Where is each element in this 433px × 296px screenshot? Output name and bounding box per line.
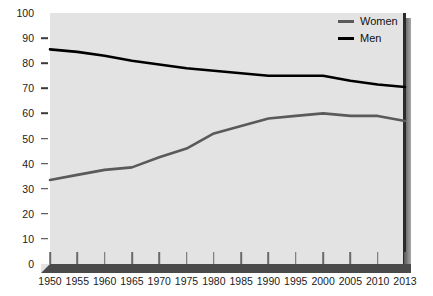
- plot-area: [50, 13, 406, 264]
- x-axis-tick: [377, 252, 379, 264]
- x-axis-label: 2000: [311, 276, 334, 287]
- x-axis-tick: [186, 252, 188, 264]
- y-axis-tick: [41, 238, 48, 240]
- y-axis-tick: [41, 213, 48, 215]
- legend-swatch-icon: [338, 37, 354, 40]
- x-axis-tick: [158, 252, 160, 264]
- x-axis-label: 2013: [393, 276, 416, 287]
- x-axis-label: 1975: [175, 276, 198, 287]
- y-axis-tick: [41, 163, 48, 165]
- legend-item-women[interactable]: Women: [338, 16, 398, 27]
- y-axis-tick: [41, 37, 48, 39]
- line-chart: 0102030405060708090100 19501955196019651…: [0, 0, 433, 296]
- x-axis-label: 1950: [38, 276, 61, 287]
- plot-bevel-shadow: [406, 18, 411, 269]
- x-axis-label: 1965: [120, 276, 143, 287]
- x-axis-label: 1985: [229, 276, 252, 287]
- x-axis-label: 1995: [284, 276, 307, 287]
- x-axis-label: 1980: [202, 276, 225, 287]
- y-axis-label: 60: [22, 108, 34, 119]
- x-axis-tick: [268, 252, 270, 264]
- legend-item-men[interactable]: Men: [338, 33, 398, 44]
- x-axis-bar: [41, 264, 411, 273]
- x-axis-tick: [295, 252, 297, 264]
- y-axis-label: 80: [22, 58, 34, 69]
- x-axis-tick: [350, 252, 352, 264]
- y-axis-label: 40: [22, 158, 34, 169]
- legend-label: Women: [360, 16, 398, 27]
- legend-swatch-icon: [338, 20, 354, 23]
- x-axis-tick: [404, 252, 406, 264]
- y-axis-label: 90: [22, 33, 34, 44]
- x-axis-label: 1955: [66, 276, 89, 287]
- plot-border-right: [403, 13, 406, 265]
- x-axis-tick: [213, 252, 215, 264]
- x-axis-tick: [77, 252, 79, 264]
- y-axis-label: 100: [16, 8, 34, 19]
- x-axis-label: 2010: [366, 276, 389, 287]
- y-axis-label: 20: [22, 209, 34, 220]
- y-axis-label: 10: [22, 234, 34, 245]
- y-axis-label: 30: [22, 183, 34, 194]
- y-axis-tick: [41, 113, 48, 115]
- y-axis: 0102030405060708090100: [0, 0, 50, 296]
- y-axis-tick: [41, 188, 48, 190]
- y-axis-tick: [41, 88, 48, 90]
- legend-label: Men: [360, 33, 381, 44]
- x-axis-label: 1960: [93, 276, 116, 287]
- y-axis-label: 50: [22, 133, 34, 144]
- y-axis-tick: [41, 138, 48, 140]
- x-axis-tick: [131, 252, 133, 264]
- y-axis-label: 70: [22, 83, 34, 94]
- y-axis-label: 0: [28, 259, 34, 270]
- x-axis-label: 1990: [257, 276, 280, 287]
- x-axis-tick: [104, 252, 106, 264]
- x-axis-tick: [240, 252, 242, 264]
- x-axis-label: 2005: [339, 276, 362, 287]
- x-axis-tick: [49, 252, 51, 264]
- x-axis-tick: [322, 252, 324, 264]
- x-axis-label: 1970: [148, 276, 171, 287]
- y-axis-tick: [41, 62, 48, 64]
- legend: WomenMen: [338, 16, 398, 44]
